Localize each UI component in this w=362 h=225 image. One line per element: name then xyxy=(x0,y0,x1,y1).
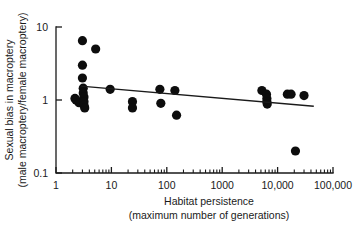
data-point xyxy=(286,90,295,99)
y-axis-title-line2: (male macroptery/female macroptery) xyxy=(16,12,28,187)
x-axis-title-line2: (maximum number of generations) xyxy=(129,209,289,221)
x-axis-title-line1: Habitat persistence xyxy=(164,195,254,207)
x-tick-label: 1000 xyxy=(211,179,235,191)
chart-background xyxy=(0,0,362,225)
data-point xyxy=(80,103,89,112)
x-tick-label: 10,000 xyxy=(262,179,294,191)
data-point xyxy=(263,99,272,108)
data-point xyxy=(78,61,87,70)
chart-canvas: 110100100010,000100,000 0.1110 Habitat p… xyxy=(0,0,362,225)
data-point xyxy=(91,44,100,53)
x-tick-label: 10 xyxy=(106,179,118,191)
data-point xyxy=(291,146,300,155)
data-point xyxy=(128,103,137,112)
data-point xyxy=(78,73,87,82)
x-tick-label: 100 xyxy=(158,179,176,191)
data-point xyxy=(299,91,308,100)
x-tick-label: 100,000 xyxy=(314,179,352,191)
y-axis-title-line1: Sexual bias in macroptery xyxy=(3,39,15,161)
data-point xyxy=(172,111,181,120)
y-tick-label: 0.1 xyxy=(33,167,48,179)
y-tick-label: 1 xyxy=(42,94,48,106)
x-tick-label: 1 xyxy=(53,179,59,191)
data-point xyxy=(156,99,165,108)
data-point xyxy=(78,36,87,45)
y-tick-label: 10 xyxy=(36,21,48,33)
scatter-plot-figure: 110100100010,000100,000 0.1110 Habitat p… xyxy=(0,0,362,225)
